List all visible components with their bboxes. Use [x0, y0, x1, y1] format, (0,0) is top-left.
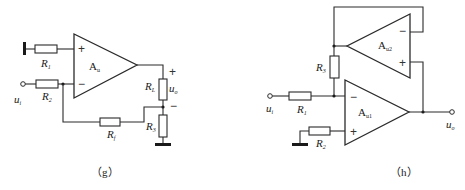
input-terminal-ui	[268, 94, 273, 99]
label-uo: uo	[169, 82, 178, 95]
uo-minus-sign: −	[170, 99, 177, 113]
label-r1: R1	[40, 57, 51, 70]
ground-symbol-r1	[23, 42, 26, 55]
opamp-minus-sign: −	[78, 77, 85, 91]
junction-node	[332, 94, 335, 97]
resistor-r3	[330, 56, 339, 78]
opamp-plus-sign: +	[78, 42, 85, 56]
resistor-r2	[309, 127, 330, 135]
label-rf: Rf	[106, 128, 117, 141]
label-uo: uo	[446, 118, 455, 131]
caption-g: （g）	[91, 166, 119, 178]
label-r3: R3	[145, 120, 156, 133]
label-ui: ui	[266, 102, 274, 115]
input-terminal-ui	[21, 82, 26, 87]
opamp2-minus-sign: −	[399, 24, 406, 38]
label-r2: R2	[315, 137, 326, 150]
figure-g: R1 R2 ui + − Au RL R3 + uo − Rf （g）	[14, 34, 178, 178]
label-r2: R2	[41, 90, 52, 103]
resistor-r3	[159, 115, 167, 137]
wire	[300, 131, 309, 144]
wire	[120, 107, 163, 122]
opamp1-plus-sign: +	[350, 125, 357, 139]
label-ui: ui	[14, 93, 22, 106]
opamp1-minus-sign: −	[350, 90, 357, 104]
ground-symbol-r2	[292, 143, 308, 146]
opamp2-plus-sign: +	[399, 56, 406, 70]
caption-h: （h）	[390, 166, 418, 178]
wire	[410, 62, 423, 112]
ground-symbol-r3	[155, 143, 171, 146]
resistor-rf	[100, 118, 120, 126]
resistor-r2	[36, 80, 58, 88]
resistor-r1	[289, 92, 311, 100]
output-terminal-uo	[450, 110, 455, 115]
circuit-diagrams: R1 R2 ui + − Au RL R3 + uo − Rf （g）	[0, 0, 465, 190]
figure-h: − + Au2 R3 R1 ui − + Au1 R2	[266, 7, 455, 178]
label-r1: R1	[296, 103, 307, 116]
resistor-rl	[159, 79, 167, 100]
wire	[137, 65, 163, 79]
uo-plus-sign: +	[169, 65, 176, 79]
resistor-r1	[35, 45, 57, 53]
label-rl: RL	[144, 80, 156, 93]
label-r3: R3	[315, 61, 326, 74]
